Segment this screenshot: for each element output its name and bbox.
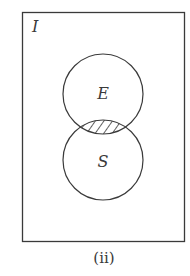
set-e-label: E: [96, 84, 109, 103]
set-s-label: S: [98, 152, 109, 171]
figure-caption: (ii): [93, 249, 114, 267]
venn-diagram: I E S (ii): [0, 0, 190, 276]
universe-label: I: [31, 17, 39, 36]
